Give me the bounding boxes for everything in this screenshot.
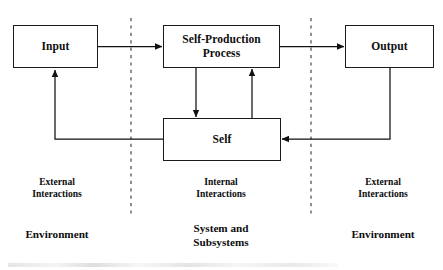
edge-output-to-self xyxy=(282,68,390,139)
node-self-production-process[interactable]: Self-Production Process xyxy=(163,25,280,68)
node-input-label: Input xyxy=(14,40,97,53)
node-self-production-process-label: Self-Production Process xyxy=(164,33,279,59)
cropped-caption-remnant xyxy=(8,263,338,267)
zone-left-environment-label: Environment xyxy=(0,228,114,242)
node-output[interactable]: Output xyxy=(345,25,434,68)
node-self-label: Self xyxy=(164,133,280,146)
node-input[interactable]: Input xyxy=(13,25,98,68)
zone-right-environment-label: Environment xyxy=(326,228,440,242)
zone-left-interactions-label: External Interactions xyxy=(0,176,114,199)
zone-right-interactions-label: External Interactions xyxy=(326,176,440,199)
edge-self-to-input xyxy=(55,70,163,139)
zone-middle-environment-label: System and Subsystems xyxy=(164,222,278,249)
diagram-canvas: Input Self-Production Process Output Sel… xyxy=(0,0,443,270)
node-self[interactable]: Self xyxy=(163,118,281,161)
node-output-label: Output xyxy=(346,40,433,53)
zone-middle-interactions-label: Internal Interactions xyxy=(164,176,278,199)
